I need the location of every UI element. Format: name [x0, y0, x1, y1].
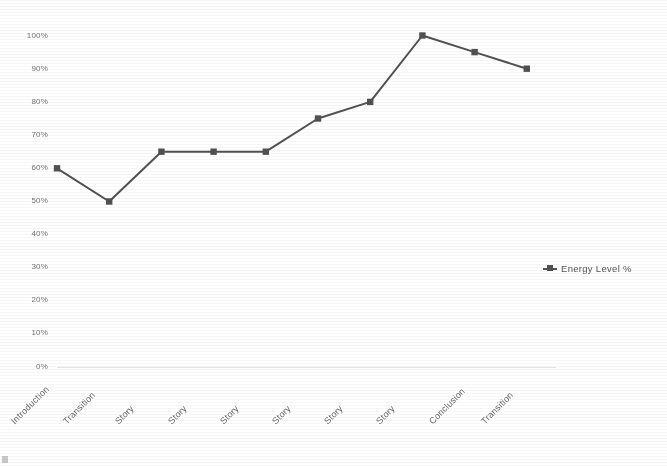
data-point-marker	[367, 99, 373, 105]
chart-container: 100% 90% 80% 70% 60% 50% 40% 30% 20% 10%…	[0, 0, 667, 466]
series-line-energy-level	[57, 36, 527, 202]
data-point-marker	[210, 149, 216, 155]
data-point-marker	[158, 149, 164, 155]
data-point-marker	[315, 115, 321, 121]
plot-area	[0, 0, 667, 466]
data-point-marker	[419, 32, 425, 38]
data-point-marker	[106, 198, 112, 204]
data-point-marker	[54, 165, 60, 171]
chart-legend: Energy Level %	[543, 263, 632, 274]
series-markers-energy-level	[54, 32, 530, 204]
legend-entry-label: Energy Level %	[561, 263, 632, 274]
data-point-marker	[471, 49, 477, 55]
scan-artifact	[2, 456, 8, 463]
data-point-marker	[263, 149, 269, 155]
line-square-marker-icon	[543, 264, 557, 273]
data-point-marker	[524, 66, 530, 72]
